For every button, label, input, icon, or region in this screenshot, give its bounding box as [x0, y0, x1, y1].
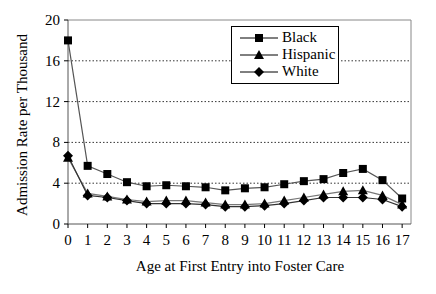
y-tick-label: 16 — [45, 53, 61, 69]
x-tick-label: 8 — [221, 232, 229, 248]
x-tick-label: 1 — [84, 232, 92, 248]
square-marker — [359, 165, 367, 173]
x-tick-label: 11 — [277, 232, 291, 248]
series-line-white — [68, 156, 402, 207]
x-tick-label: 2 — [104, 232, 112, 248]
square-marker — [261, 183, 269, 191]
legend-item-hispanic: Hispanic — [238, 46, 335, 63]
square-marker — [103, 170, 111, 178]
x-tick-label: 0 — [64, 232, 72, 248]
square-marker — [241, 184, 249, 192]
square-marker — [162, 181, 170, 189]
y-tick-label: 8 — [53, 134, 61, 150]
diamond-marker — [83, 190, 93, 200]
legend-label: White — [282, 63, 319, 80]
legend-label: Black — [282, 29, 317, 46]
x-tick-label: 10 — [257, 232, 272, 248]
legend-item-white: White — [238, 63, 319, 80]
x-tick-label: 15 — [355, 232, 370, 248]
square-marker — [64, 36, 72, 44]
diamond-marker — [240, 202, 250, 212]
y-tick-label: 0 — [53, 216, 61, 232]
diamond-marker — [142, 199, 152, 209]
triangle-marker-icon — [238, 49, 280, 61]
square-marker — [202, 183, 210, 191]
x-tick-label: 13 — [316, 232, 331, 248]
diamond-marker-icon — [238, 66, 280, 78]
x-tick-label: 14 — [336, 232, 352, 248]
diamond-marker — [260, 201, 270, 211]
square-marker-icon — [238, 32, 280, 44]
x-tick-label: 17 — [395, 232, 411, 248]
square-marker — [280, 180, 288, 188]
x-tick-label: 7 — [202, 232, 210, 248]
legend-label: Hispanic — [282, 46, 335, 63]
square-marker — [123, 178, 131, 186]
diamond-marker — [102, 192, 112, 202]
square-marker — [221, 186, 229, 194]
axis-ticks: 04812162001234567891011121314151617 — [45, 12, 410, 248]
x-tick-label: 9 — [241, 232, 249, 248]
diamond-marker — [220, 202, 230, 212]
y-tick-label: 12 — [45, 94, 60, 110]
x-tick-label: 12 — [296, 232, 311, 248]
square-marker — [84, 162, 92, 170]
square-marker — [300, 177, 308, 185]
x-tick-label: 5 — [163, 232, 171, 248]
x-axis-label: Age at First Entry into Foster Care — [136, 258, 344, 275]
x-tick-label: 16 — [375, 232, 391, 248]
legend-item-black: Black — [238, 29, 317, 46]
y-tick-label: 4 — [53, 175, 61, 191]
diamond-marker — [377, 195, 387, 205]
y-axis-label: Admission Rate per Thousand — [14, 34, 31, 216]
y-tick-label: 20 — [45, 12, 60, 28]
x-tick-label: 6 — [182, 232, 190, 248]
x-tick-label: 4 — [143, 232, 151, 248]
square-marker — [182, 182, 190, 190]
legend: Black Hispanic White — [231, 26, 339, 84]
diamond-marker — [201, 200, 211, 210]
x-tick-label: 3 — [123, 232, 131, 248]
square-marker — [320, 175, 328, 183]
diamond-marker — [122, 196, 132, 206]
square-marker — [378, 176, 386, 184]
square-marker — [339, 169, 347, 177]
line-chart: 04812162001234567891011121314151617 — [0, 0, 436, 294]
square-marker — [143, 182, 151, 190]
